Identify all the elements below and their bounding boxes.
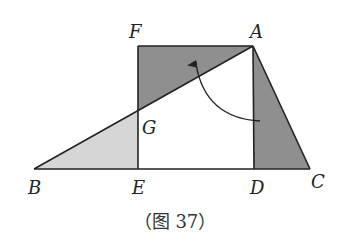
label-d: D: [249, 177, 265, 198]
label-g: G: [142, 117, 156, 138]
figure-caption: （图 37）: [134, 211, 217, 232]
label-a: A: [248, 21, 263, 42]
label-e: E: [131, 177, 145, 198]
geometry-figure: F A G B E D C （图 37）: [0, 0, 351, 252]
label-b: B: [27, 177, 41, 198]
segment-ad: [253, 46, 254, 169]
label-f: F: [128, 21, 143, 42]
label-c: C: [311, 171, 325, 192]
